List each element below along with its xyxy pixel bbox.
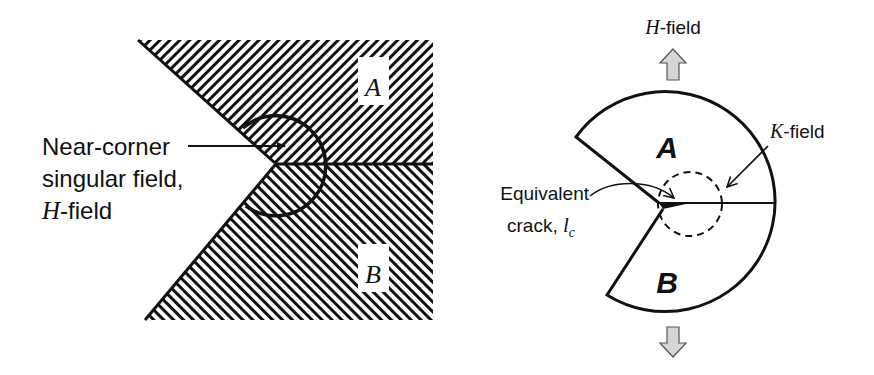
region-b-label-right: B (656, 266, 678, 299)
region-a-label: A (363, 73, 381, 102)
annotation-line-1: Near-corner (42, 133, 170, 160)
load-arrow-down-icon (660, 327, 686, 357)
k-field-arrow (727, 146, 768, 187)
region-a-label-right: A (655, 131, 678, 164)
crack-leader-arrow (590, 184, 674, 199)
k-field-label: K-field (769, 120, 825, 142)
annotation-line-2: singular field, (42, 165, 183, 192)
load-arrow-up-icon (660, 49, 686, 80)
crack-label-line-1: Equivalent (500, 183, 589, 204)
material-b-region (145, 163, 433, 320)
annotation-line-3: H-field (41, 197, 112, 224)
crack-tip-wedge (659, 202, 695, 209)
bimaterial-corner-diagram: A B Near-corner singular field, H-field … (0, 0, 874, 375)
right-panel: H-field A B K-field Equivalent crack, lc (500, 16, 824, 357)
region-b-label: B (365, 260, 381, 289)
h-field-label: H-field (644, 16, 701, 38)
crack-label-line-2: crack, lc (507, 213, 576, 240)
left-panel: A B Near-corner singular field, H-field (41, 40, 433, 320)
